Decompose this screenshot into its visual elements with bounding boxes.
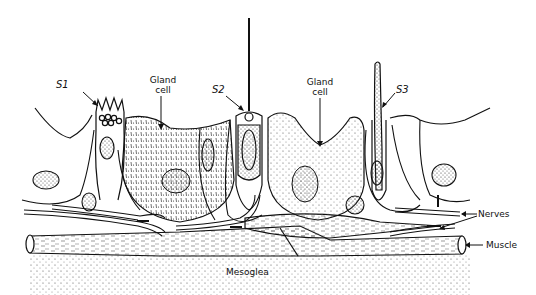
label-mesoglea: Mesoglea: [226, 267, 269, 277]
label-nerves: Nerves: [478, 209, 510, 219]
label-gland-cell-right-line2: cell: [300, 87, 340, 97]
epidermis-surface-right: [390, 108, 490, 124]
gland-cell-right-nucleus: [292, 166, 318, 202]
diagram-drawing: [0, 0, 536, 295]
sensory-cell-s2: [236, 18, 262, 210]
epidermis-surface-left: [35, 108, 92, 138]
gland-cell-left-nucleus: [162, 169, 190, 193]
label-muscle: Muscle: [486, 240, 517, 250]
label-gland-cell-left-line1: Gland: [143, 75, 183, 85]
label-s1: S1: [56, 80, 69, 90]
label-s3: S3: [396, 85, 409, 95]
label-s2: S2: [212, 85, 225, 95]
sensory-cell-s1: [96, 98, 125, 200]
label-gland-cell-right-line1: Gland: [300, 77, 340, 87]
label-gland-cell-left-line2: cell: [143, 85, 183, 95]
epidermis-diagram: S1 Gland cell S2 Gland cell S3 Nerves Mu…: [0, 0, 536, 295]
